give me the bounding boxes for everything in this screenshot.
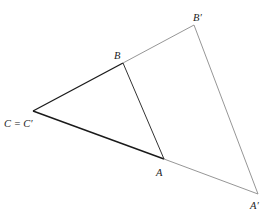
dilation-diagram: B B′ C = C′ A A′ — [0, 0, 271, 216]
segment-b-bprime — [123, 25, 194, 63]
segment-b-a — [123, 63, 164, 159]
label-a: A — [155, 167, 163, 178]
segment-c-a — [33, 111, 164, 159]
label-b-prime: B′ — [193, 12, 202, 23]
label-b: B — [114, 50, 121, 61]
segment-a-aprime — [164, 159, 258, 194]
label-a-prime: A′ — [249, 200, 259, 211]
label-c-equals-c-prime: C = C′ — [4, 118, 33, 129]
segment-c-b — [33, 63, 123, 111]
segment-bprime-aprime — [194, 25, 258, 194]
